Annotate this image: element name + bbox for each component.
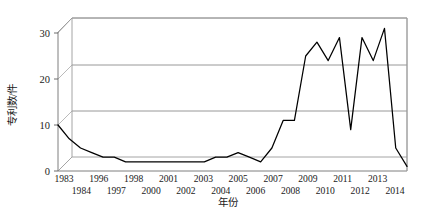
xtick-label: 2000 [142,185,161,196]
x-axis-title: 年份 [218,196,239,208]
chart-left-wall [58,18,72,171]
xtick-label: 1984 [72,185,91,196]
xtick-label: 2001 [159,173,178,184]
patent-count-line-chart: 0 10 20 30 专利数/件 19831996199820012003200… [0,0,422,210]
x-axis-labels-lower-row: 1984199720002002200420062008201020122014 [72,185,405,196]
x-axis-labels-upper-row: 1983199619982001200320052007200920112013 [54,173,387,184]
xtick-label: 2006 [246,185,265,196]
ytick-label-20: 20 [40,74,51,85]
chart-container: 0 10 20 30 专利数/件 19831996199820012003200… [0,0,422,210]
y-axis-title: 专利数/件 [6,84,18,127]
ytick-label-0: 0 [45,166,50,177]
xtick-label: 2003 [194,173,213,184]
xtick-label: 2010 [316,185,335,196]
xtick-label: 2009 [298,173,317,184]
ytick-label-30: 30 [40,28,51,39]
xtick-label: 2008 [281,185,300,196]
xtick-label: 2004 [211,185,230,196]
xtick-label: 2011 [333,173,352,184]
chart-back-wall [72,18,407,157]
xtick-label: 2007 [264,173,283,184]
xtick-label: 1996 [89,173,108,184]
ytick-label-10: 10 [40,120,51,131]
xtick-label: 2014 [385,185,404,196]
xtick-label: 2013 [368,173,387,184]
xtick-label: 2005 [229,173,248,184]
xtick-label: 1983 [54,173,73,184]
xtick-label: 1997 [107,185,126,196]
xtick-label: 2012 [351,185,370,196]
chart-floor [58,157,407,171]
xtick-label: 2002 [176,185,195,196]
xtick-label: 1998 [124,173,143,184]
